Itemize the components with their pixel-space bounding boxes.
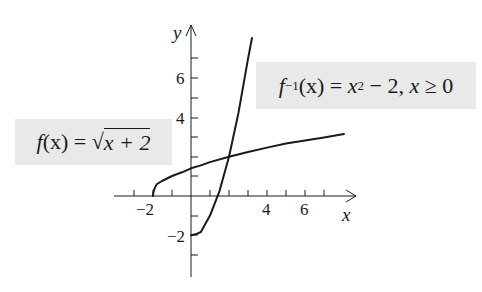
x-tick-label: −2 [136,201,154,218]
sqrt-symbol-icon: √ [92,129,104,155]
x-ticks [134,190,324,196]
f-args: (x) = [43,129,92,155]
finv-x2: x [409,73,419,99]
y-tick-label: 6 [176,70,185,87]
finv-x: x [348,73,358,99]
curve-f-sqrt [153,134,344,196]
annotation-f-inverse: f−1(x) = x2 − 2, x ≥ 0 [256,62,476,109]
x-tick-label: 4 [262,201,271,218]
finv-args: (x) = [299,73,348,99]
finv-rest: − 2, [364,73,409,99]
f-radicand: x + 2 [104,128,151,156]
finv-name: f [279,73,285,99]
finv-condition: ≥ 0 [419,73,453,99]
x-tick-label: 6 [300,201,309,218]
annotation-f: f(x) = √x + 2 [15,119,172,165]
y-ticks [191,58,198,255]
y-tick-label: 4 [176,110,185,127]
curve-f-inverse [191,38,252,235]
y-tick-label: −2 [167,228,185,245]
x-axis-label: x [342,205,350,224]
y-axis-label: y [173,23,181,42]
